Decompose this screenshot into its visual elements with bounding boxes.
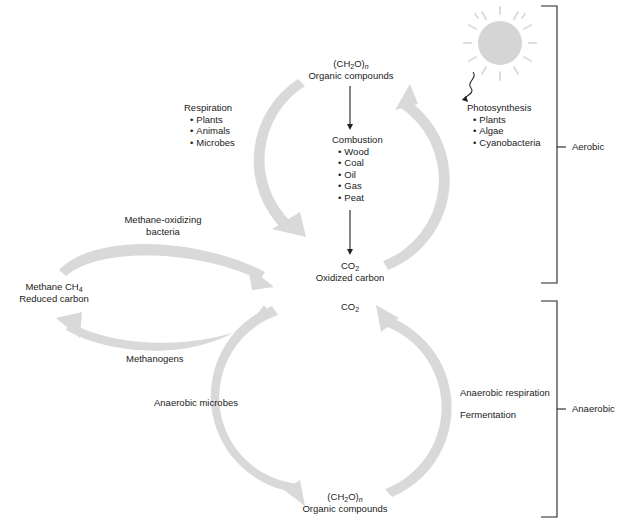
organic-label-top: Organic compounds [306, 70, 396, 82]
respiration-title: Respiration [184, 102, 235, 114]
combustion-item: Gas [332, 180, 383, 192]
methane-node: Methane CH4 Reduced carbon [14, 281, 94, 304]
combustion-item: Oil [332, 169, 383, 181]
co2-anaerobic-node: CO2 [330, 301, 370, 313]
photosynthesis-item: Plants [467, 114, 541, 126]
anaerobic-label: Anaerobic [572, 403, 615, 415]
fermentation-label: Fermentation [460, 409, 516, 421]
photosynthesis-arrow [383, 84, 450, 270]
co2-oxidized-node: CO2 Oxidized carbon [305, 260, 395, 283]
photosynthesis-label: Photosynthesis Plants Algae Cyanobacteri… [467, 102, 541, 148]
methane-formula: Methane CH4 [14, 281, 94, 293]
co2-formula-aerobic: CO2 [305, 260, 395, 272]
combustion-item: Coal [332, 157, 383, 169]
anaerobic-bracket [541, 301, 566, 517]
anaerobic-microbes-label: Anaerobic microbes [154, 397, 238, 409]
aerobic-bracket [541, 6, 566, 283]
organic-formula-top: (CH2O)n [306, 58, 396, 70]
methane-oxidizing-bacteria-label: Methane-oxidizing bacteria [118, 214, 208, 237]
combustion-item: Wood [332, 146, 383, 158]
respiration-arrow [254, 79, 306, 237]
respiration-item: Plants [184, 114, 235, 126]
combustion-label: Combustion Wood Coal Oil Gas Peat [332, 134, 383, 203]
methane-oxidizing-line1: Methane-oxidizing [118, 214, 208, 226]
aerobic-label: Aerobic [572, 141, 604, 153]
anaerobic-respiration-label: Anaerobic respiration [460, 387, 550, 399]
methanogens-label: Methanogens [126, 353, 184, 365]
respiration-item: Microbes [184, 137, 235, 149]
methanogenesis-arrow [56, 305, 271, 351]
anaerobic-respiration-arrow [376, 305, 452, 497]
sun-icon [464, 7, 536, 80]
photosynthesis-title: Photosynthesis [467, 102, 541, 114]
photosynthesis-item: Algae [467, 125, 541, 137]
organic-compounds-top-node: (CH2O)n Organic compounds [306, 58, 396, 81]
respiration-item: Animals [184, 125, 235, 137]
oxidized-carbon-label: Oxidized carbon [305, 272, 395, 284]
reduced-carbon-label: Reduced carbon [14, 293, 94, 305]
organic-compounds-bottom-node: (CH2O)n Organic compounds [300, 491, 390, 514]
respiration-label: Respiration Plants Animals Microbes [184, 102, 235, 148]
photosynthesis-item: Cyanobacteria [467, 137, 541, 149]
combustion-item: Peat [332, 192, 383, 204]
organic-formula-bottom: (CH2O)n [300, 491, 390, 503]
methane-oxidizing-line2: bacteria [118, 226, 208, 238]
light-squiggle-arrow-icon [465, 72, 474, 100]
combustion-title: Combustion [332, 134, 383, 146]
organic-label-bottom: Organic compounds [300, 503, 390, 515]
